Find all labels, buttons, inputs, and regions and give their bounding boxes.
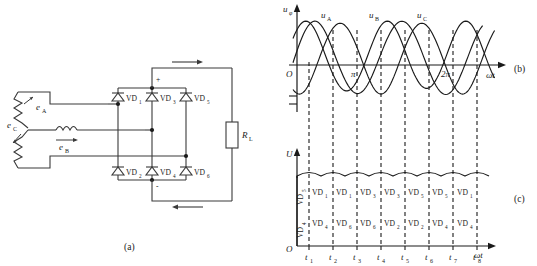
t2-sub: 2 (334, 258, 337, 264)
vd5-sub: 5 (207, 99, 210, 105)
curve-u-c (293, 23, 495, 94)
t1-sub: 1 (310, 258, 313, 264)
vd4-text: VD (160, 168, 171, 177)
t3-sub: 3 (358, 258, 361, 264)
load-resistor (226, 122, 238, 148)
ct5-text: VD (408, 188, 419, 197)
conduction-labels-bottom: VD 4 VD 4 VD 6 VD 6 VD 2 (296, 219, 473, 238)
xtick-t1: t1 (305, 252, 313, 264)
ct3-text: VD (360, 188, 371, 197)
current-arrow-bottom-head (172, 205, 178, 210)
diode-label-vd3: VD 3 (160, 94, 176, 105)
e-c-letter: e (7, 120, 11, 130)
xticks-c (309, 246, 477, 250)
vd3-sub: 3 (173, 99, 176, 105)
ct1-sub: 1 (325, 193, 328, 199)
load-resistor-label: R L (241, 130, 253, 142)
xtick-t5: t5 (401, 252, 409, 264)
xlabel-b-text: ωt (486, 70, 495, 80)
cb2-sub: 6 (349, 224, 352, 230)
axis-y-arrow-c (294, 148, 300, 156)
cb4-sub: 2 (397, 224, 400, 230)
winding-b (56, 127, 77, 131)
panel-caption-b: (b) (514, 64, 525, 75)
t4-letter: t (377, 252, 380, 262)
polarity-plus: + (156, 75, 160, 84)
cb2-text: VD (336, 219, 347, 228)
conduction-bottom-6: VD 4 (432, 219, 448, 230)
cb7-sub: 4 (470, 224, 473, 230)
waveform-panel-b: u φ O ωt u (283, 4, 525, 112)
conduction-bottom-2: VD 6 (336, 219, 352, 230)
cb0-text: VD (296, 227, 305, 238)
t2-letter: t (329, 252, 332, 262)
rl-sub: L (249, 136, 253, 142)
t1-letter: t (305, 252, 308, 262)
e-c-sub: C (13, 126, 17, 132)
curve-u-b (293, 21, 495, 91)
ylabel-c: U (286, 149, 293, 159)
e-a-letter: e (36, 102, 40, 112)
origin-label-c: O (286, 244, 293, 254)
t5-letter: t (401, 252, 404, 262)
t3-letter: t (353, 252, 356, 262)
diode-vd3-symbol (146, 93, 158, 101)
ct2-sub: 1 (349, 193, 352, 199)
e-b-letter: e (59, 142, 63, 152)
rl-letter: R (241, 130, 248, 140)
curve-labels-b: u A u B u C (321, 10, 427, 22)
xtick-t7: t7 (449, 252, 457, 264)
rectified-ripple-curve (297, 173, 489, 179)
label-e-a: e A (24, 97, 47, 114)
cb1-sub: 4 (325, 224, 328, 230)
cb7-text: VD (457, 219, 468, 228)
diode-labels: VD 1 VD 3 VD 5 VD 2 VD 4 (126, 94, 210, 179)
origin-label-b: O (286, 69, 293, 79)
ct7-text: VD (457, 188, 468, 197)
ub-sub: B (375, 16, 379, 22)
t5-sub: 5 (406, 258, 409, 264)
xtick-t2: t2 (329, 252, 337, 264)
axis-x-arrow-c (488, 243, 496, 249)
uc-sub: C (423, 16, 427, 22)
ct6-sub: 5 (445, 193, 448, 199)
xtick-labels-c: t1 t2 t3 t4 t5 t6 t7 t8 (305, 252, 481, 264)
e-b-sub: B (65, 148, 69, 154)
axis-x-arrow-b (498, 62, 506, 68)
vd5-text: VD (194, 94, 205, 103)
curve-label-u-a: u A (321, 10, 332, 22)
conduction-bottom-3: VD 6 (360, 219, 376, 230)
vd2-sub: 2 (139, 173, 142, 179)
polarity-minus: - (156, 182, 159, 191)
xlabel-b: ωt (486, 70, 495, 80)
conduction-labels-top: VD 5 VD 1 VD 1 VD 3 VD 3 (296, 188, 473, 205)
conduction-bottom-5: VD 2 (408, 219, 424, 230)
vd2-text: VD (126, 168, 137, 177)
figure-root: e A e C e B (0, 0, 537, 266)
junction-dot-a (116, 102, 120, 106)
diode-vd6-symbol (180, 167, 192, 175)
cb6-text: VD (432, 219, 443, 228)
junction-dot-b (150, 128, 154, 132)
conduction-bottom-1: VD 4 (312, 219, 328, 230)
curve-u-a (293, 21, 483, 94)
vd4-sub: 4 (173, 173, 176, 179)
curve-label-u-c: u C (417, 10, 427, 22)
curve-label-u-b: u B (369, 10, 379, 22)
ua-letter: u (321, 10, 326, 20)
label-e-b: e B (56, 138, 78, 154)
current-arrows (172, 60, 203, 210)
ct2-text: VD (336, 188, 347, 197)
conduction-top-1: VD 1 (312, 188, 328, 199)
cb1-text: VD (312, 219, 323, 228)
cb5-sub: 2 (421, 224, 424, 230)
ylabel-b: u φ (283, 4, 293, 16)
t8-sub: 8 (478, 258, 481, 264)
ct5-sub: 5 (421, 193, 424, 199)
conduction-top-4: VD 3 (384, 188, 400, 199)
t4-sub: 4 (382, 258, 385, 264)
ylabel-b-sub: φ (289, 10, 293, 16)
wire-dc-minus (152, 180, 232, 201)
diode-label-vd1: VD 1 (126, 94, 142, 105)
e-a-sub: A (42, 108, 47, 114)
